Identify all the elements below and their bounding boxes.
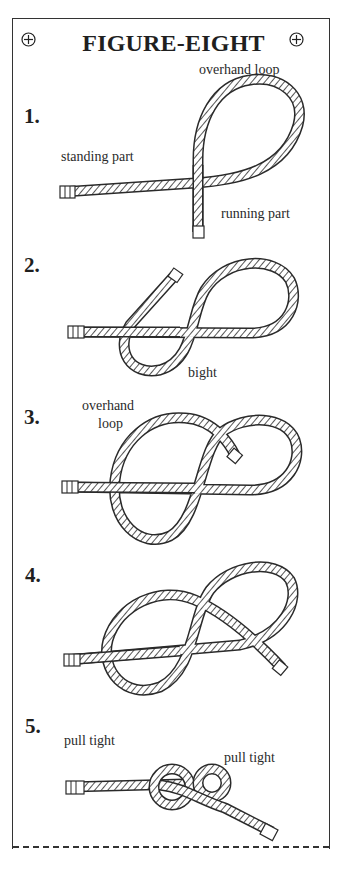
step-1-illustration [60, 79, 299, 238]
step-2-illustration [68, 263, 294, 371]
knot-illustrations: .rope-o { fill: none; stroke: #2a2a2a; s… [0, 0, 347, 874]
step-5-illustration [66, 769, 278, 841]
step-4-illustration [64, 567, 293, 690]
step-3-illustration [62, 418, 297, 540]
